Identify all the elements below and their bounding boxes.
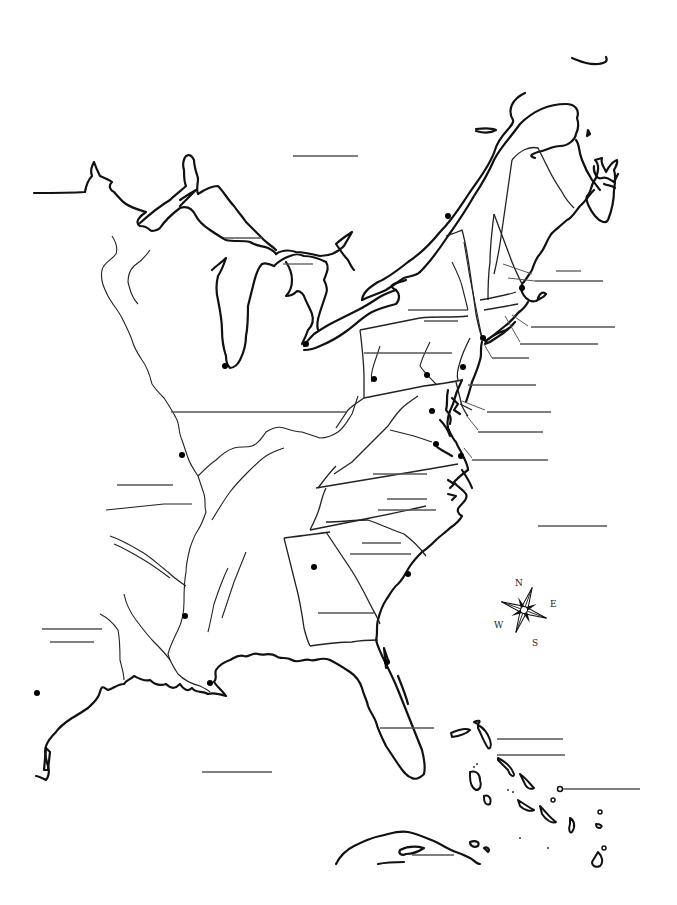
borders bbox=[284, 148, 574, 647]
compass-rose-icon: N E S W bbox=[493, 578, 556, 648]
city-richmond bbox=[433, 441, 439, 447]
outer-banks bbox=[448, 470, 472, 500]
cuba-island bbox=[336, 831, 489, 864]
label-blanks bbox=[42, 156, 640, 855]
city-pittsburgh bbox=[371, 376, 377, 382]
compass-east-label: E bbox=[550, 599, 557, 609]
city-new-york bbox=[480, 335, 486, 341]
florida-peninsula bbox=[330, 648, 412, 778]
city-st-augustine bbox=[384, 659, 390, 665]
city-charleston bbox=[405, 571, 411, 577]
city-quebec bbox=[445, 213, 451, 219]
city-st-louis bbox=[179, 452, 185, 458]
compass-south-label: S bbox=[532, 638, 538, 648]
city-boston bbox=[519, 285, 525, 291]
city-norfolk bbox=[458, 453, 464, 459]
city-atlanta bbox=[311, 564, 317, 570]
lake-superior bbox=[34, 155, 276, 254]
atlantic-coastline bbox=[376, 190, 594, 779]
bahamas-islands bbox=[451, 721, 606, 867]
city-philadelphia bbox=[460, 364, 466, 370]
city-washington bbox=[429, 408, 435, 414]
lake-michigan bbox=[212, 255, 326, 369]
city-san-antonio bbox=[34, 690, 40, 696]
eastern-us-outline-map: N E S W bbox=[0, 0, 677, 905]
lake-huron bbox=[276, 232, 354, 344]
city-chicago bbox=[222, 363, 228, 369]
city-natchez bbox=[182, 613, 188, 619]
nova-scotia bbox=[587, 158, 618, 222]
city-new-orleans bbox=[207, 680, 213, 686]
compass-west-label: W bbox=[494, 620, 504, 630]
city-harrisburg bbox=[424, 372, 430, 378]
gulf-coastline bbox=[36, 654, 330, 780]
city-detroit bbox=[303, 341, 309, 347]
compass-north-label: N bbox=[515, 578, 523, 588]
rivers bbox=[100, 236, 482, 692]
